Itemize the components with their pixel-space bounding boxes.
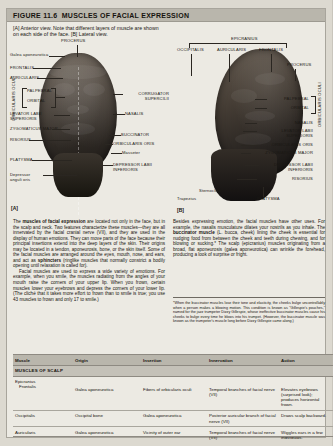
label-risorius-a: RISORIUS: [10, 138, 31, 143]
header-muscle: Muscle: [13, 355, 73, 365]
right-p1-a: Besides expressing emotion, the facial m…: [173, 219, 325, 230]
row-muscle: Occipitalis: [13, 411, 73, 426]
leader-frontalis-a: [33, 68, 61, 69]
leader-risorius-b: [237, 179, 257, 180]
leader-frontalis-b: [271, 54, 272, 72]
table-row: Auricularis Galea aponeurotica Vicinity …: [13, 427, 333, 442]
leader-zygomaticus-a: [52, 129, 70, 130]
label-depressor-labii-inferioris-b: DEPRESSOR LABII INFERIORIS: [259, 163, 313, 173]
row-action: Draws scalp backward.: [279, 411, 333, 426]
leader-corrugator-a: [113, 94, 123, 95]
label-corrugator-supercilii-a: CORRUGATOR SUPERCILII: [123, 92, 169, 102]
label-levator-labii-superioris-a: LEVATOR LABII SUPERIORIS: [10, 112, 54, 122]
left-paragraph-1: The muscles of facial expression are loc…: [13, 219, 165, 269]
label-nasalis-b: NASALIS: [257, 121, 313, 126]
leader-risorius-a: [29, 140, 71, 141]
leader-orbital-b: [255, 108, 267, 109]
row-action: Wiggles ears in a few individuals.: [279, 427, 333, 442]
header-action: Action: [279, 355, 333, 365]
row-innervation: Temporal branches of facial nerve (VII): [207, 427, 279, 442]
panel-b-letter: [B]: [177, 207, 184, 213]
label-orbicularis-oris-a: ORBICULARIS ORIS: [113, 142, 154, 147]
right-column: Besides expressing emotion, the facial m…: [173, 219, 325, 258]
label-occipitalis-b: OCCIPITALIS: [177, 48, 204, 53]
left-p1-bold2: sphincters: [38, 258, 61, 263]
leader-depressor-labii-b: [245, 165, 259, 166]
left-paragraph-2: Facial muscles are used to express a wid…: [13, 269, 165, 302]
panel-a: PROCERUS Galea aponeurotica FRONTALIS AU…: [9, 37, 171, 217]
leader-palpebral-b: [255, 99, 267, 100]
label-palpebral-a: PALPEBRAL: [27, 89, 52, 94]
row-insertion: Fibers of orbicularis oculi: [141, 384, 207, 410]
leader-nasalis-b: [245, 123, 257, 124]
row-action: Elevates eyebrows (surprised look); prod…: [279, 384, 333, 410]
footnote-rule: [173, 297, 325, 298]
label-epicranius-b: EPICRANIUS: [231, 37, 258, 42]
leader-platysma-b: [263, 187, 264, 197]
label-galea-aponeurotica-a: Galea aponeurotica: [10, 53, 48, 58]
header-innervation: Innervation: [207, 355, 279, 365]
header-insertion: Insertion: [141, 355, 207, 365]
left-p1-bold: muscles of facial expression: [22, 219, 85, 224]
leader-orbicularis-oris-b: [241, 145, 257, 146]
label-orbital-a: ORBITAL: [27, 99, 45, 104]
table-row: Occipitalis Occipital bone Galea aponeur…: [13, 411, 333, 427]
footnote: *When the buccinator muscles lose their …: [173, 301, 325, 324]
table-section-title: MUSCLES OF SCALP: [13, 366, 333, 376]
row-origin: Galea aponeurotica: [73, 384, 141, 410]
label-frontalis-b: FRONTALIS: [259, 48, 283, 53]
row-origin: Galea aponeurotica: [73, 427, 141, 442]
bracket-orbicularis-oculi-a-right: [51, 88, 56, 108]
label-levator-labii-superioris-b: LEVATOR LABII SUPERIORIS: [257, 129, 313, 139]
row-insertion: Galea aponeurotica: [141, 411, 207, 426]
left-p1-lead: The: [13, 219, 22, 224]
figure-title: FIGURE 11.6 MUSCLES OF FACIAL EXPRESSION: [13, 12, 189, 19]
panel-a-letter: [A]: [11, 205, 18, 211]
row-insertion: Vicinity of outer ear: [141, 427, 207, 442]
leader-occipitalis-b: [191, 54, 192, 76]
row-innervation: Posterior auricular branch of facial ner…: [207, 411, 279, 426]
label-procerus-a: PROCERUS: [61, 39, 85, 44]
leader-masseter-a: [111, 153, 122, 154]
label-procerus-b: PROCERUS: [287, 63, 311, 68]
label-frontalis-a: FRONTALIS: [10, 66, 34, 71]
label-orbicularis-oris-b: ORBICULARIS ORIS: [257, 143, 313, 148]
label-nasalis-a: NASALIS: [125, 112, 143, 117]
label-zygomaticus-major-a: ZYGOMATICUS MAJOR: [10, 127, 58, 132]
label-depressor-labii-inferioris-a: DEPRESSOR LABII INFERIORIS: [113, 163, 165, 173]
figure-caption: [A] Anterior view. Note that different l…: [13, 25, 163, 38]
figure-sheet: FIGURE 11.6 MUSCLES OF FACIAL EXPRESSION…: [6, 8, 326, 438]
label-zygomaticus-major-b: ZYGOMATICUS MAJOR: [251, 151, 313, 156]
header-origin: Origin: [73, 355, 141, 365]
leader-buccinator-a: [109, 135, 121, 136]
muscle-table: Muscle Origin Insertion Innervation Acti…: [13, 354, 333, 442]
figure-illustrations: PROCERUS Galea aponeurotica FRONTALIS AU…: [7, 37, 325, 217]
table-group-label: Epicranius: [13, 377, 73, 385]
leader-auricularis-a: [37, 78, 63, 79]
leader-orbicularis-oculi-a: [55, 97, 65, 98]
leader-depressor-labii-a: [103, 165, 113, 166]
label-orbital-b: ORBITAL: [267, 106, 309, 111]
label-risorius-b: RISORIUS: [257, 177, 313, 182]
leader-procerus-b: [295, 69, 296, 81]
leader-levator-a: [54, 115, 70, 116]
leader-orbicularis-oris-a: [105, 144, 113, 145]
label-trapezius-b: Trapezius: [177, 197, 196, 202]
leader-procerus-a: [77, 45, 78, 57]
bracket-orbicularis-oculi-b: [311, 96, 316, 114]
left-p1-rest: are located not only in the face, but in…: [13, 219, 165, 263]
right-p1-bold: buccinator muscle: [173, 230, 215, 235]
panel-b: EPICRANIUS OCCIPITALIS AURICULARIS FRONT…: [171, 37, 327, 217]
leader-galea-a: [49, 56, 65, 57]
body-text: The muscles of facial expression are loc…: [7, 219, 325, 344]
right-paragraph-1: Besides expressing emotion, the facial m…: [173, 219, 325, 258]
leader-auricularis-b: [229, 54, 230, 82]
label-auricularis-b: AURICULARIS: [217, 48, 246, 53]
label-depressor-anguli-oris-a: Depressor anguli oris: [10, 173, 42, 183]
label-sternocleidomastoid-b: Sternocleidomastoid: [199, 189, 239, 194]
figure-title-text: MUSCLES OF FACIAL EXPRESSION: [62, 12, 189, 19]
table-header-row: Muscle Origin Insertion Innervation Acti…: [13, 354, 333, 366]
leader-zygomaticus-b: [241, 153, 251, 154]
row-muscle: Auricularis: [13, 427, 73, 442]
